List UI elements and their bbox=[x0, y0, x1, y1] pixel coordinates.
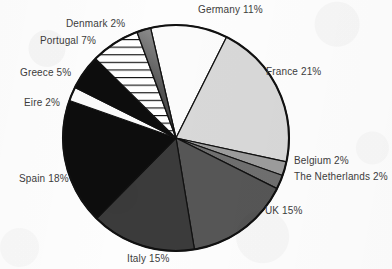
slice-label-denmark: Denmark 2% bbox=[66, 18, 125, 30]
slice-label-greece: Greece 5% bbox=[20, 67, 71, 79]
slice-label-spain: Spain 18% bbox=[19, 173, 69, 185]
pie-chart-figure: Germany 11% Denmark 2% Portugal 7% Greec… bbox=[0, 0, 392, 269]
slice-label-belgium: Belgium 2% bbox=[294, 155, 349, 167]
slice-label-germany: Germany 11% bbox=[198, 4, 263, 16]
slice-label-eire: Eire 2% bbox=[24, 97, 60, 109]
slice-label-netherlands: The Netherlands 2% bbox=[294, 171, 388, 183]
slice-label-portugal: Portugal 7% bbox=[40, 35, 96, 47]
slice-label-uk: UK 15% bbox=[265, 205, 303, 217]
slice-label-france: France 21% bbox=[266, 66, 321, 78]
pie-slices-group bbox=[63, 25, 289, 251]
slice-label-italy: Italy 15% bbox=[127, 253, 169, 265]
